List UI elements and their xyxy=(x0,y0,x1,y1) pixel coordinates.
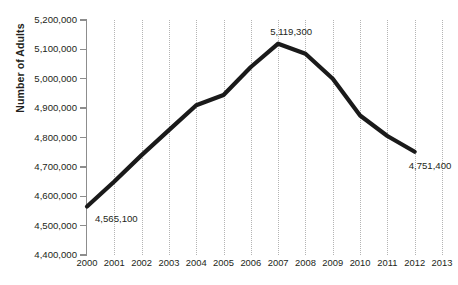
line-chart: Number of Adults 4,400,0004,500,0004,600… xyxy=(0,0,458,285)
x-axis-gridline xyxy=(333,20,335,255)
y-axis-tick xyxy=(80,19,86,20)
y-axis-tick-label: 4,800,000 xyxy=(7,132,77,143)
data-point-label: 5,119,300 xyxy=(270,26,312,37)
y-axis-spine xyxy=(86,19,87,256)
x-axis-tick-label: 2013 xyxy=(422,257,458,268)
y-axis-tick-label: 4,900,000 xyxy=(7,102,77,113)
y-axis-tick-label: 4,600,000 xyxy=(7,190,77,201)
x-axis-gridline xyxy=(169,20,171,255)
x-axis-gridline xyxy=(415,20,417,255)
y-axis-tick-label: 4,700,000 xyxy=(7,161,77,172)
y-axis-tick xyxy=(80,78,86,79)
y-axis-tick-label: 5,200,000 xyxy=(7,14,77,25)
x-axis-gridline xyxy=(251,20,253,255)
x-axis-gridline xyxy=(278,20,280,255)
y-axis-tick xyxy=(80,196,86,197)
x-axis-gridline xyxy=(442,20,444,255)
y-axis-tick xyxy=(80,166,86,167)
x-axis-gridline xyxy=(196,20,198,255)
y-axis-tick xyxy=(80,49,86,50)
y-axis-tick xyxy=(80,137,86,138)
x-axis-gridline xyxy=(224,20,226,255)
y-axis-tick xyxy=(80,107,86,108)
data-point-label: 4,751,400 xyxy=(409,160,452,171)
data-point-label: 4,565,100 xyxy=(95,213,138,224)
y-axis-tick xyxy=(80,254,86,255)
x-axis-gridline xyxy=(305,20,307,255)
x-axis-gridline xyxy=(142,20,144,255)
y-axis-tick-label: 5,000,000 xyxy=(7,73,77,84)
y-axis-tick-label: 5,100,000 xyxy=(7,43,77,54)
y-axis-tick-label: 4,500,000 xyxy=(7,220,77,231)
x-axis-gridline xyxy=(360,20,362,255)
x-axis-gridline xyxy=(387,20,389,255)
y-axis-tick xyxy=(80,225,86,226)
